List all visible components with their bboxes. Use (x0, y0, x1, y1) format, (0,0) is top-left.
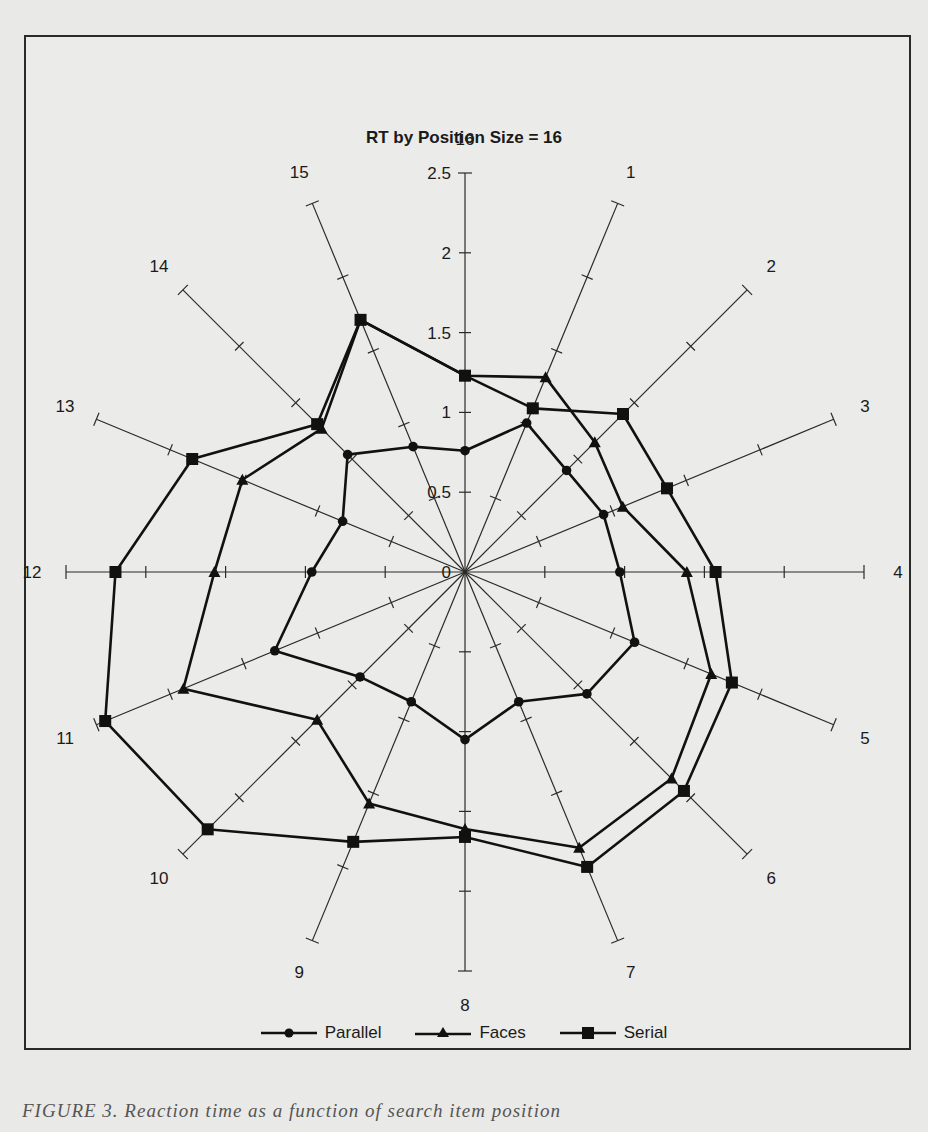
data-point-square (109, 566, 121, 578)
radial-tick-label: 1.5 (427, 324, 451, 343)
axis-label: 7 (626, 963, 635, 982)
figure-caption: FIGURE 3. Reaction time as a function of… (22, 1100, 561, 1132)
legend-label: Parallel (325, 1023, 382, 1043)
data-point-circle (406, 697, 416, 707)
legend-item-serial: Serial (560, 1023, 667, 1043)
data-point-triangle (617, 501, 629, 512)
data-point-square (311, 418, 323, 430)
data-point-triangle (236, 474, 248, 485)
series-line-serial (105, 320, 732, 867)
axis-line (96, 419, 465, 572)
data-point-square (726, 677, 738, 689)
radial-tick-label: 2.5 (427, 164, 451, 183)
data-point-circle (514, 697, 524, 707)
data-point-circle (338, 517, 348, 527)
data-point-circle (599, 510, 609, 520)
data-point-square (355, 314, 367, 326)
data-point-circle (562, 466, 572, 476)
data-point-circle (522, 418, 532, 428)
data-point-square (459, 370, 471, 382)
legend-label: Faces (479, 1023, 525, 1043)
data-point-circle (460, 446, 470, 456)
axis-line (183, 572, 465, 854)
axis-label: 1 (626, 163, 635, 182)
radar-chart: 1612345678910111213141500.511.522.5 (0, 0, 928, 1132)
data-point-circle (630, 637, 640, 647)
data-point-square (459, 831, 471, 843)
axis-label: 15 (290, 163, 309, 182)
data-point-square (186, 453, 198, 465)
legend-item-parallel: Parallel (261, 1023, 382, 1043)
axis-label: 12 (23, 563, 42, 582)
data-point-square (661, 482, 673, 494)
radial-tick-label: 0 (442, 563, 451, 582)
axis-label: 14 (149, 257, 168, 276)
axis-label: 8 (460, 996, 469, 1015)
data-point-circle (408, 442, 418, 452)
axis-label: 6 (766, 869, 775, 888)
legend: Parallel Faces Serial (0, 1023, 928, 1043)
data-point-square (347, 836, 359, 848)
radial-tick-label: 0.5 (427, 483, 451, 502)
series-line-faces (183, 320, 711, 848)
axis-label: 2 (766, 257, 775, 276)
data-point-square (710, 566, 722, 578)
radial-tick-label: 1 (442, 403, 451, 422)
axis-line (465, 572, 747, 854)
data-point-square (617, 408, 629, 420)
axis-label: 5 (860, 729, 869, 748)
data-point-triangle (705, 668, 717, 679)
legend-item-faces: Faces (415, 1023, 525, 1043)
data-point-square (99, 715, 111, 727)
square-marker-icon (560, 1026, 616, 1040)
data-point-circle (307, 567, 317, 577)
axis-label: 10 (149, 869, 168, 888)
axis-line (465, 572, 618, 941)
axis-label: 4 (893, 563, 902, 582)
circle-marker-icon (261, 1026, 317, 1040)
axis-line (312, 572, 465, 941)
axis-label: 13 (56, 397, 75, 416)
axis-label: 9 (295, 963, 304, 982)
axis-label: 3 (860, 397, 869, 416)
series-line-parallel (275, 423, 635, 740)
data-point-circle (460, 735, 470, 745)
axis-line (465, 419, 834, 572)
data-point-triangle (177, 683, 189, 694)
data-point-circle (355, 672, 365, 682)
data-point-square (527, 402, 539, 414)
legend-label: Serial (624, 1023, 667, 1043)
axis-label: 16 (456, 130, 475, 149)
data-point-circle (270, 646, 280, 656)
radial-tick-label: 2 (442, 244, 451, 263)
data-point-circle (615, 567, 625, 577)
data-point-square (202, 823, 214, 835)
data-point-square (581, 861, 593, 873)
data-point-circle (582, 689, 592, 699)
triangle-marker-icon (415, 1026, 471, 1040)
axis-label: 11 (56, 729, 74, 748)
data-point-square (678, 785, 690, 797)
data-point-circle (343, 450, 353, 460)
